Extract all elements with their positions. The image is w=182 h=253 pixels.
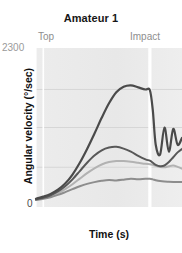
vertical-marker-impact <box>148 48 151 207</box>
plot-area <box>0 0 182 253</box>
chart-figure: Amateur 1 Top Impact 2300 0 Angular velo… <box>0 0 182 253</box>
vertical-marker-top <box>43 48 45 207</box>
